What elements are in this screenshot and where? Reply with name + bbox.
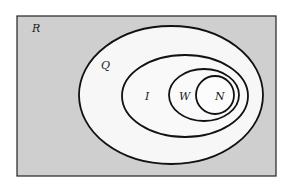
label-n: N bbox=[214, 90, 225, 103]
label-r: R bbox=[31, 22, 40, 35]
label-i: I bbox=[144, 90, 150, 103]
venn-diagram: R Q I W N bbox=[0, 0, 290, 186]
label-q: Q bbox=[101, 59, 110, 72]
label-w: W bbox=[179, 90, 192, 103]
